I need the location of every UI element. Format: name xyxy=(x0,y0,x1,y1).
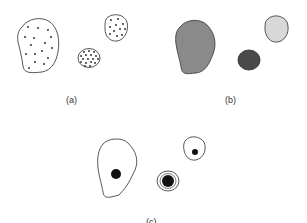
large-cell-c xyxy=(98,139,137,197)
dots-small-a-top xyxy=(109,18,126,37)
small-cell-b-light xyxy=(265,16,288,42)
nucleus-small-c-bottom xyxy=(162,175,174,187)
panel-label-c: (c) xyxy=(146,217,157,223)
panel-label-a: (a) xyxy=(66,95,77,105)
dots-dense-a xyxy=(80,50,99,67)
panel-label-b: (b) xyxy=(225,95,236,105)
panel-b xyxy=(176,16,288,74)
small-cell-a-top xyxy=(105,15,128,41)
nucleus-small-c-top xyxy=(192,149,198,155)
diagram-canvas xyxy=(0,0,307,223)
dots-large-a xyxy=(24,26,53,69)
nucleus-large-c xyxy=(111,169,121,179)
small-cell-b-dark xyxy=(238,50,260,70)
large-cell-a xyxy=(18,19,59,73)
small-cell-c-top xyxy=(184,137,206,160)
large-cell-b xyxy=(176,20,215,73)
panel-c xyxy=(98,137,205,197)
panel-a xyxy=(18,15,128,73)
